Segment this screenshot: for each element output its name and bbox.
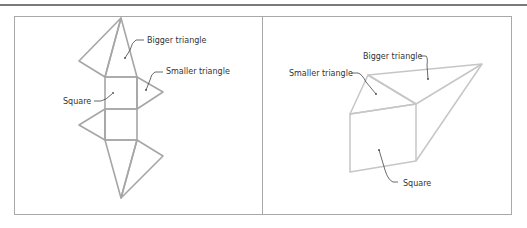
prism-square [350,104,416,172]
prism-3d [350,64,482,172]
figure-canvas: Bigger triangle Smaller triangle Square … [0,0,527,228]
right-label-smaller-triangle: Smaller triangle [289,69,353,78]
prism-smaller-triangle [350,75,416,114]
net-side-triangle-bottom-right [121,140,163,198]
net-smaller-triangle-right [137,77,163,109]
net-bigger-triangle-bottom [105,140,137,198]
left-label-square: Square [63,97,91,106]
left-label-smaller-triangle: Smaller triangle [166,67,230,76]
net-square-upper [105,77,137,109]
net-bigger-triangle-top [105,18,137,77]
prism-bigger-triangle [368,64,482,104]
net-side-triangle-top-left [79,18,121,77]
net-smaller-triangle-left [79,109,105,140]
net-square-lower [105,109,137,140]
right-label-square: Square [403,179,431,188]
left-label-bigger-triangle: Bigger triangle [147,36,207,45]
prism-net [79,18,163,198]
right-label-bigger-triangle: Bigger triangle [363,52,423,61]
prism-back-edge [416,64,482,161]
